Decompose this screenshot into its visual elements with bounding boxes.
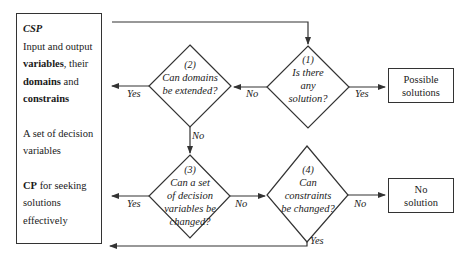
csp-box: CSP Input and output variables, their do… — [16, 13, 102, 244]
cp-line2: solutions — [23, 194, 95, 212]
arrow-d4-yes — [110, 242, 307, 246]
label-d4-no: No — [354, 198, 366, 210]
label-d2-yes: Yes — [127, 88, 141, 100]
decision-1-text: (1) Is there any solution? — [273, 53, 343, 105]
decision-3-text: (3) Can a set of decision variables be c… — [150, 163, 230, 228]
label-d3-yes: Yes — [127, 198, 141, 210]
csp-line-domains: domains and — [23, 73, 95, 91]
csp-line-constrains: constrains — [23, 90, 95, 108]
label-d3-no: No — [235, 198, 247, 210]
csp-line-variables: variables, their — [23, 55, 95, 73]
possible-solutions-box: Possiblesolutions — [388, 68, 454, 103]
csp-line-input: Input and output — [23, 38, 95, 56]
label-d4-yes: Yes — [310, 235, 324, 247]
decision-2-text: (2) Can domains be extended? — [150, 58, 230, 97]
arrow-csp-to-d1 — [112, 22, 308, 44]
csp-title: CSP — [23, 23, 42, 34]
no-solution-box: Nosolution — [388, 178, 454, 213]
cp-line1: CP for seeking — [23, 177, 95, 195]
label-d2-no: No — [192, 130, 204, 142]
label-d1-no: No — [246, 88, 258, 100]
decision-vars-line1: A set of decision — [23, 125, 95, 143]
label-d1-yes: Yes — [355, 88, 369, 100]
decision-4-text: (4) Can constraints be changed? — [268, 163, 348, 215]
decision-vars-line2: variables — [23, 142, 95, 160]
cp-line3: effectively — [23, 212, 95, 230]
